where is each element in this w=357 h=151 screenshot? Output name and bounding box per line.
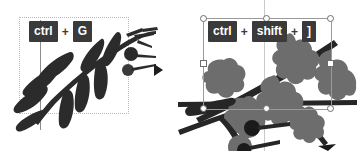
- shortcut-badge-group: ctrl + G: [29, 21, 92, 42]
- handle-bottom-center[interactable]: [263, 105, 270, 112]
- key-bracket-right: ]: [302, 21, 316, 42]
- handle-top-left[interactable]: [200, 15, 207, 22]
- key-shift: shift: [252, 21, 287, 42]
- flow-arrow-icon: [154, 64, 163, 76]
- key-separator-1: +: [240, 26, 249, 38]
- key-ctrl: ctrl: [208, 21, 237, 42]
- handle-middle-right[interactable]: [327, 60, 334, 67]
- key-separator: +: [61, 26, 70, 38]
- shortcut-badge-group-right: ctrl + shift + ]: [208, 21, 316, 42]
- key-g: G: [73, 21, 92, 42]
- key-ctrl: ctrl: [29, 21, 58, 42]
- handle-middle-left[interactable]: [200, 60, 207, 67]
- key-separator-2: +: [290, 26, 299, 38]
- handle-bottom-right[interactable]: [327, 105, 334, 112]
- handle-bottom-left[interactable]: [200, 105, 207, 112]
- handle-top-right[interactable]: [327, 15, 334, 22]
- screenshot-canvas: ctrl + G: [0, 0, 357, 151]
